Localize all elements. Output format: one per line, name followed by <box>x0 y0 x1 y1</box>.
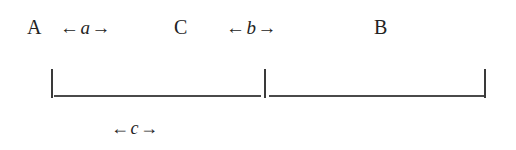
span-variable-b: b <box>246 17 258 38</box>
span-label-b: ←b→ <box>226 18 277 37</box>
tick-mark-left <box>51 69 53 98</box>
ruler-segment-a <box>54 95 261 97</box>
tick-mark-right <box>484 69 486 98</box>
right-arrow-icon: → <box>140 118 159 138</box>
point-label-b: B <box>374 17 387 37</box>
point-label-a: A <box>27 17 41 37</box>
span-variable-c: c <box>130 118 141 138</box>
span-label-a: ←a→ <box>60 18 111 37</box>
measurement-diagram: A ←a→ C ←b→ B ←c→ <box>0 0 516 150</box>
left-arrow-icon: ← <box>111 118 130 138</box>
right-arrow-icon: → <box>258 17 278 38</box>
right-arrow-icon: → <box>92 17 112 38</box>
left-arrow-icon: ← <box>226 17 246 38</box>
span-variable-a: a <box>80 17 92 38</box>
tick-mark-middle <box>264 69 266 98</box>
left-arrow-icon: ← <box>60 17 80 38</box>
ruler-segment-b <box>269 95 485 97</box>
point-label-c: C <box>174 17 187 37</box>
span-label-c: ←c→ <box>111 119 159 137</box>
